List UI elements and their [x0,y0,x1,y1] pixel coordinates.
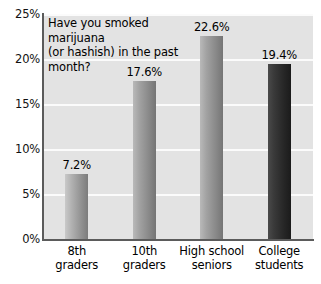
category-label-line: College [243,245,315,259]
y-axis-tick-label: 0% [2,234,40,244]
y-axis-line [42,13,44,240]
category-label: 8thgraders [41,245,113,272]
question-line-2: (or hashish) in the past [48,45,200,60]
bar-value-label: 19.4% [249,49,309,61]
question-line-1: Have you smoked marijuana [48,16,200,45]
bar-chart: 0%5%10%15%20%25% 7.2%17.6%22.6%19.4% 8th… [0,0,321,284]
y-axis-tick-label: 10% [2,144,40,154]
bar [268,64,291,239]
category-label-line: graders [108,259,180,273]
question-text: Have you smoked marijuana (or hashish) i… [48,16,200,74]
y-axis-tick-label: 20% [2,54,40,64]
bar [200,36,223,239]
category-label-line: students [243,259,315,273]
bar-value-label: 7.2% [47,159,107,171]
y-axis-tick-label: 5% [2,189,40,199]
question-line-3: month? [48,60,200,75]
category-label-line: High school [176,245,248,259]
category-label: 10thgraders [108,245,180,272]
category-label: High schoolseniors [176,245,248,272]
category-label-line: seniors [176,259,248,273]
category-label: Collegestudents [243,245,315,272]
y-axis-tick-label: 15% [2,99,40,109]
bar [65,174,88,239]
bar [133,81,156,239]
category-label-line: 8th [41,245,113,259]
x-axis-line [42,239,314,241]
category-label-line: 10th [108,245,180,259]
category-label-line: graders [41,259,113,273]
y-axis-tick-label: 25% [2,9,40,19]
y-axis-tick-labels: 0%5%10%15%20%25% [0,0,40,284]
